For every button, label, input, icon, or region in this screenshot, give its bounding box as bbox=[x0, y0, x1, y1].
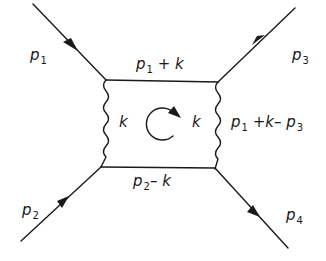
label-p3: p3 bbox=[292, 48, 309, 66]
line-top-internal bbox=[106, 80, 218, 82]
arrow-p4-icon bbox=[247, 205, 260, 217]
photon-left bbox=[101, 80, 109, 167]
arrow-p1-icon bbox=[63, 38, 78, 51]
feynman-diagram: p1 p3 p2 p4 p1 + k p2– k k k p1 +k– p3 bbox=[0, 0, 326, 261]
label-p2: p2 bbox=[22, 203, 39, 221]
label-p1: p1 bbox=[30, 48, 47, 66]
label-bottom-momentum: p2– k bbox=[133, 174, 171, 192]
line-bottom-internal bbox=[101, 167, 215, 168]
line-p3 bbox=[218, 8, 295, 82]
label-p4: p4 bbox=[286, 208, 303, 226]
label-right-photon-momentum: p1 +k– p3 bbox=[231, 115, 303, 133]
label-loop-k: k bbox=[192, 115, 201, 130]
photon-right bbox=[215, 82, 221, 169]
loop-arrowhead-icon bbox=[168, 106, 181, 118]
label-left-photon-k: k bbox=[119, 115, 128, 130]
label-top-momentum: p1 + k bbox=[136, 57, 184, 75]
